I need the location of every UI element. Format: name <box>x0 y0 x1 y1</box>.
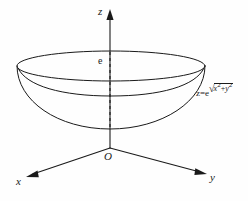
x-axis-arrowhead <box>26 170 39 177</box>
bowl-top-rim-ellipse <box>17 51 205 81</box>
bowl-outer-silhouette <box>17 66 205 129</box>
equation-radicand: x2+y2 <box>214 83 234 94</box>
equation-base: z=e <box>196 88 209 98</box>
z-intercept-label: e <box>98 56 102 66</box>
figure-canvas: z x y O e z=e√x2+y2 <box>0 0 248 201</box>
y-axis-arrowhead <box>194 168 207 175</box>
y-axis-label: y <box>210 172 215 183</box>
bowl-inner-front-arc <box>18 68 204 96</box>
origin-label: O <box>104 151 112 162</box>
equation-exponent: √x2+y2 <box>209 84 233 93</box>
x-axis-line <box>33 148 110 174</box>
z-axis-arrowhead <box>106 9 113 20</box>
z-axis-label: z <box>98 6 102 17</box>
surface-equation-label: z=e√x2+y2 <box>196 84 233 98</box>
x-axis-label: x <box>16 176 21 187</box>
y-axis-line <box>110 148 200 172</box>
